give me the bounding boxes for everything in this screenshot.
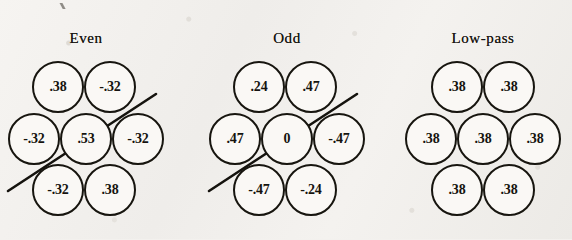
kernel-cell-value: -.47 (328, 132, 349, 146)
kernel-cell-value: .53 (78, 132, 95, 146)
kernel-cell-low-pass-top-right: .38 (483, 61, 535, 113)
kernel-cell-odd-top-left: .24 (233, 61, 285, 113)
kernel-cell-value: .47 (303, 80, 320, 94)
kernel-cell-value: .38 (475, 132, 492, 146)
kernel-cell-value: .38 (501, 183, 518, 197)
kernel-cell-value: .47 (227, 132, 244, 146)
kernel-cell-low-pass-top-left: .38 (431, 61, 483, 113)
kernel-cell-low-pass-center: .38 (457, 113, 509, 165)
kernel-cell-low-pass-middle-right: .38 (509, 113, 561, 165)
kernel-cell-even-top-left: .38 (32, 61, 84, 113)
kernel-cell-value: -.32 (47, 183, 68, 197)
kernel-cell-value: .38 (449, 183, 466, 197)
kernel-cell-low-pass-middle-left: .38 (405, 113, 457, 165)
kernel-cell-value: .38 (102, 183, 119, 197)
kernel-cell-low-pass-bottom-left: .38 (431, 164, 483, 216)
kernel-cell-odd-top-right: .47 (285, 61, 337, 113)
kernel-cell-value: .24 (251, 80, 268, 94)
kernel-cell-even-middle-right: -.32 (112, 113, 164, 165)
kernel-cell-even-bottom-left: -.32 (32, 164, 84, 216)
kernel-cell-value: .38 (501, 80, 518, 94)
kernel-cell-odd-middle-left: .47 (209, 113, 261, 165)
group-title-low-pass: Low-pass (451, 30, 514, 47)
kernel-cell-low-pass-bottom-right: .38 (483, 164, 535, 216)
group-title-odd: Odd (273, 30, 301, 47)
kernel-cell-value: .38 (50, 80, 67, 94)
kernel-cell-even-center: .53 (60, 113, 112, 165)
kernel-cell-value: .38 (423, 132, 440, 146)
kernel-cell-odd-center: 0 (261, 113, 313, 165)
kernel-cell-value: .38 (449, 80, 466, 94)
group-title-even: Even (69, 30, 102, 47)
kernel-cell-even-bottom-right: .38 (84, 164, 136, 216)
kernel-cell-even-top-right: -.32 (84, 61, 136, 113)
kernel-cell-value: -.24 (300, 183, 321, 197)
kernel-cell-value: 0 (284, 132, 291, 146)
kernel-cell-odd-bottom-left: -.47 (233, 164, 285, 216)
kernel-cell-even-middle-left: -.32 (8, 113, 60, 165)
kernel-cell-odd-middle-right: -.47 (313, 113, 365, 165)
kernel-cell-value: -.32 (127, 132, 148, 146)
kernel-cell-value: -.32 (23, 132, 44, 146)
kernel-cell-value: -.47 (248, 183, 269, 197)
kernel-cell-value: -.32 (99, 80, 120, 94)
kernel-cell-value: .38 (527, 132, 544, 146)
kernel-cell-odd-bottom-right: -.24 (285, 164, 337, 216)
